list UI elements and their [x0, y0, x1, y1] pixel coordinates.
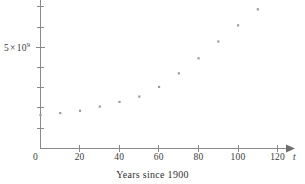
data-point — [197, 57, 199, 59]
y-axis-tick-label: 5×109 — [4, 42, 30, 54]
y-label-base: 10 — [17, 43, 27, 53]
data-point — [39, 114, 41, 116]
data-point — [79, 110, 81, 112]
data-point — [257, 8, 259, 10]
multiplication-sign: × — [9, 43, 17, 53]
x-axis-variable-label: t — [293, 153, 296, 163]
origin-tick-label: 0 — [33, 153, 38, 163]
data-point — [99, 105, 101, 107]
x-tick-label-120: 120 — [270, 153, 285, 163]
data-point — [158, 86, 160, 88]
x-tick-label-100: 100 — [231, 153, 246, 163]
data-point — [178, 72, 180, 74]
data-point — [118, 101, 120, 103]
data-point — [138, 96, 140, 98]
y-label-exponent: 9 — [27, 41, 30, 48]
x-axis-caption: Years since 1900 — [0, 170, 305, 180]
x-tick-label-80: 80 — [193, 153, 203, 163]
x-tick-label-60: 60 — [154, 153, 164, 163]
x-tick-label-40: 40 — [114, 153, 124, 163]
data-point — [237, 24, 239, 26]
population-scatter-figure: 5×109 0 20 40 60 80 100 120 t Years sinc… — [0, 0, 305, 184]
x-tick-label-20: 20 — [75, 153, 85, 163]
data-point-group — [39, 8, 259, 116]
plot-area — [0, 0, 305, 184]
data-point — [217, 40, 219, 42]
data-point — [59, 112, 61, 114]
